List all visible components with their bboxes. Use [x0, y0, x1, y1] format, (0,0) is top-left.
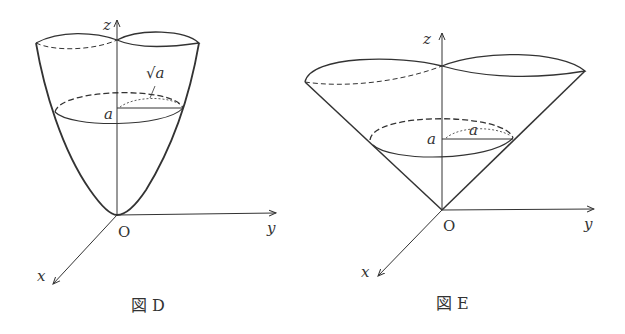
diagram-canvas: z y x O a √a 図 D z y x O a a 図 E — [0, 0, 625, 334]
caption-e: 図 E — [436, 294, 469, 313]
figure-e: z y x O a a 図 E — [305, 30, 594, 313]
y-label-d: y — [266, 219, 276, 237]
cone-top-rim-hidden — [305, 66, 442, 84]
paraboloid-top-rim-hidden — [36, 40, 117, 49]
x-label-d: x — [37, 267, 46, 285]
radius-brace-e — [446, 129, 511, 138]
x-axis-e — [378, 210, 442, 276]
level-circle-front-d — [55, 108, 183, 124]
radius-label-e: a — [469, 121, 478, 139]
origin-label-e: O — [443, 217, 455, 235]
cone-right-edge — [442, 71, 585, 210]
z-label-e: z — [422, 30, 431, 48]
level-circle-front-e — [373, 138, 513, 157]
height-label-d: a — [104, 105, 113, 123]
height-label-e: a — [427, 130, 436, 148]
radius-leader-d — [150, 86, 155, 98]
x-axis-d — [53, 215, 117, 284]
level-circle-back-d — [55, 93, 183, 112]
figure-d: z y x O a √a 図 D — [36, 16, 276, 315]
x-label-e: x — [361, 263, 370, 281]
cone-top-rim — [305, 55, 585, 82]
y-axis-d — [117, 213, 276, 215]
y-label-e: y — [583, 215, 593, 233]
radius-brace-d — [120, 98, 181, 107]
y-axis-e — [442, 209, 594, 210]
caption-d: 図 D — [131, 296, 165, 315]
radius-label-d: √a — [146, 64, 165, 82]
origin-label-d: O — [118, 223, 130, 241]
z-label-d: z — [102, 16, 111, 34]
